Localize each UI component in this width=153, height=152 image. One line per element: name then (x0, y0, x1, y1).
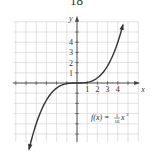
y-tick-label: 4 (69, 38, 73, 47)
svg-text:3: 3 (126, 112, 129, 117)
svg-text:f(x) =: f(x) = (91, 113, 110, 122)
x-tick-label: 2 (95, 85, 99, 94)
x-tick-label: 4 (116, 85, 120, 94)
axis-labels: 12341234xyf(x) = 116x3 (68, 14, 145, 124)
svg-text:1: 1 (116, 113, 119, 118)
y-tick-label: 2 (69, 59, 73, 68)
svg-text:x: x (120, 113, 125, 122)
axes (13, 16, 141, 142)
curve-arrow-icon (120, 23, 124, 30)
curve-arrow-icon (28, 144, 32, 151)
svg-text:16: 16 (115, 119, 121, 124)
function-graph: 12341234xyf(x) = 116x3 (0, 0, 153, 152)
x-tick-label: 1 (85, 85, 89, 94)
x-tick-label: 3 (106, 85, 110, 94)
x-axis-label: x (140, 85, 145, 94)
y-tick-label: 3 (69, 48, 73, 57)
y-axis-label: y (68, 14, 73, 23)
y-tick-label: 1 (69, 69, 73, 78)
